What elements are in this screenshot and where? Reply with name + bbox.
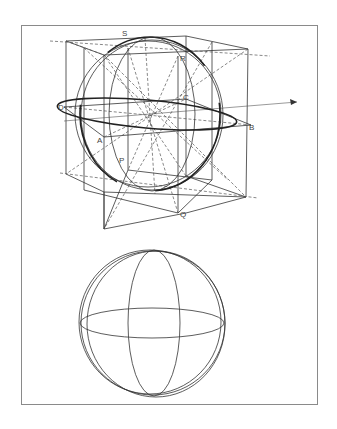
label-s: S xyxy=(122,29,127,38)
label-p: P xyxy=(119,156,124,165)
label-q: Q xyxy=(180,210,186,219)
sphere-construction-diagram: S R D B A P Q C xyxy=(0,0,337,429)
label-r: R xyxy=(180,54,186,63)
label-c: C xyxy=(183,93,189,102)
label-d: D xyxy=(58,103,64,112)
sphere-bottom xyxy=(79,250,225,397)
axis-arrow xyxy=(290,99,297,105)
label-a: A xyxy=(97,136,103,145)
label-b: B xyxy=(249,123,254,132)
